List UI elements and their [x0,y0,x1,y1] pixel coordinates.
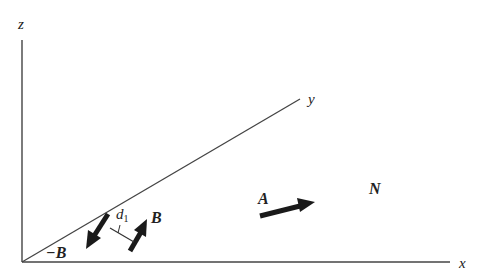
z-axis-label: z [17,16,24,32]
region-n-label: N [368,180,382,197]
coordinate-diagram: z x y −B d1 B A [0,0,480,280]
y-axis-line [22,99,300,262]
b-arrow [130,219,147,251]
y-axis-label: y [306,91,315,107]
a-label: A [257,190,269,207]
neg-b-arrow [86,214,108,249]
x-axis-label: x [458,255,466,271]
separation-subscript: 1 [124,213,129,224]
neg-b-label: −B [46,244,67,261]
separation-marker [110,225,134,242]
b-label: B [150,209,162,226]
separation-label: d1 [116,206,129,224]
